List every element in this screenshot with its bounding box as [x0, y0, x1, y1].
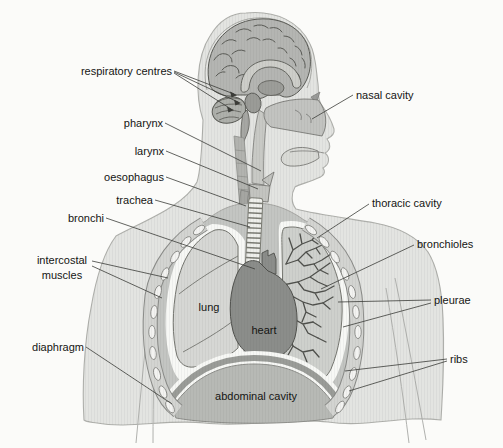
label-pleurae: pleurae: [434, 294, 471, 306]
label-pharynx: pharynx: [124, 117, 164, 129]
label-heart: heart: [251, 324, 276, 336]
label-thoracic-cavity: thoracic cavity: [372, 197, 442, 209]
label-oesophagus: oesophagus: [104, 171, 164, 183]
label-intercostal-line2: muscles: [42, 269, 83, 281]
label-larynx: larynx: [135, 145, 165, 157]
label-nasal-cavity: nasal cavity: [356, 89, 414, 101]
label-diaphragm: diaphragm: [32, 341, 84, 353]
label-respiratory-centres: respiratory centres: [81, 65, 173, 77]
label-bronchioles: bronchioles: [417, 238, 474, 250]
label-bronchi: bronchi: [68, 212, 104, 224]
label-lung: lung: [199, 301, 220, 313]
label-abdominal-cavity: abdominal cavity: [215, 390, 297, 402]
label-ribs: ribs: [450, 353, 468, 365]
respiratory-system-diagram: respiratory centres nasal cavity pharynx…: [0, 0, 503, 448]
label-intercostal-line1: intercostal: [37, 254, 87, 266]
label-trachea: trachea: [116, 194, 154, 206]
respiratory-system-figure: respiratory centres nasal cavity pharynx…: [0, 0, 503, 448]
